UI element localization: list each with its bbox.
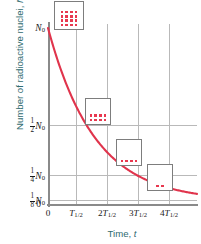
nucleus-dot (65, 19, 68, 22)
gridline-t1 (76, 24, 77, 205)
nucleus-dot (75, 24, 78, 27)
nucleus-dot (135, 160, 138, 163)
nucleus-dot (125, 160, 128, 163)
nucleus-dot (104, 119, 107, 122)
gridline-t3 (138, 24, 139, 205)
nucleus-dot (99, 119, 102, 122)
sample-box-8-nuclei (85, 98, 111, 125)
gridline-half-n0 (48, 125, 197, 126)
nuclei-row (155, 184, 165, 188)
sample-box-2-nuclei (147, 164, 173, 191)
x-tick-t4: 4T1/2 (153, 208, 185, 218)
plot-area (48, 24, 197, 205)
nucleus-dot (90, 119, 93, 122)
y-axis-line (48, 22, 50, 207)
x-tick-zero: 0 (41, 208, 55, 218)
y-tick-half-n0: 12N0 (30, 118, 45, 134)
y-axis-title-text: Number of radioactive nuclei, (14, 3, 25, 130)
x-axis-line (47, 204, 198, 206)
nucleus-dot (70, 11, 73, 14)
x-tick-t2: 2T1/2 (91, 208, 123, 218)
nucleus-dot (70, 24, 73, 27)
gridline-eighth-n0 (48, 200, 197, 201)
nuclei-row (119, 159, 138, 163)
nucleus-dot (61, 24, 64, 27)
nucleus-dot (94, 119, 97, 122)
nucleus-dot (61, 11, 64, 14)
nucleus-dot (75, 15, 78, 18)
nucleus-dot (75, 19, 78, 22)
x-axis-title-text: Time, (108, 228, 134, 239)
fraction-one-quarter: 14 (30, 168, 35, 184)
nucleus-dot (90, 114, 93, 117)
nucleus-dot (161, 185, 164, 188)
nuclei-row (59, 23, 78, 27)
nucleus-dot (94, 114, 97, 117)
sample-box-4-nuclei (116, 139, 142, 166)
decay-chart-figure: N0 12N0 14N0 18N0 0 0 T1/2 2T1/2 3T1/2 4… (0, 0, 201, 244)
y-tick-quarter-n0: 14N0 (30, 168, 45, 184)
nucleus-dot (65, 24, 68, 27)
fraction-one-eighth: 18 (30, 193, 35, 209)
nuclei-row (88, 118, 107, 122)
y-axis-title: Number of radioactive nuclei, N (13, 0, 27, 143)
sample-box-16-nuclei (54, 1, 84, 30)
nucleus-dot (61, 19, 64, 22)
x-tick-t3: 3T1/2 (122, 208, 154, 218)
nucleus-dot (65, 15, 68, 18)
nucleus-dot (99, 114, 102, 117)
x-axis-title-symbol: t (134, 228, 137, 239)
fraction-one-half: 12 (30, 118, 35, 134)
nucleus-dot (104, 114, 107, 117)
x-axis-title: Time, t (48, 228, 196, 239)
nucleus-dot (65, 11, 68, 14)
nucleus-dot (75, 11, 78, 14)
y-tick-n0: N0 (35, 22, 45, 33)
nucleus-dot (156, 185, 159, 188)
nucleus-dot (130, 160, 133, 163)
y-tick-n0-symbol: N0 (35, 23, 45, 33)
gridline-quarter-n0 (48, 175, 197, 176)
x-tick-t1: T1/2 (62, 208, 90, 218)
y-axis-title-symbol: N (14, 0, 25, 3)
nucleus-dot (70, 15, 73, 18)
nucleus-dot (70, 19, 73, 22)
nucleus-dot (121, 160, 124, 163)
nucleus-dot (61, 15, 64, 18)
